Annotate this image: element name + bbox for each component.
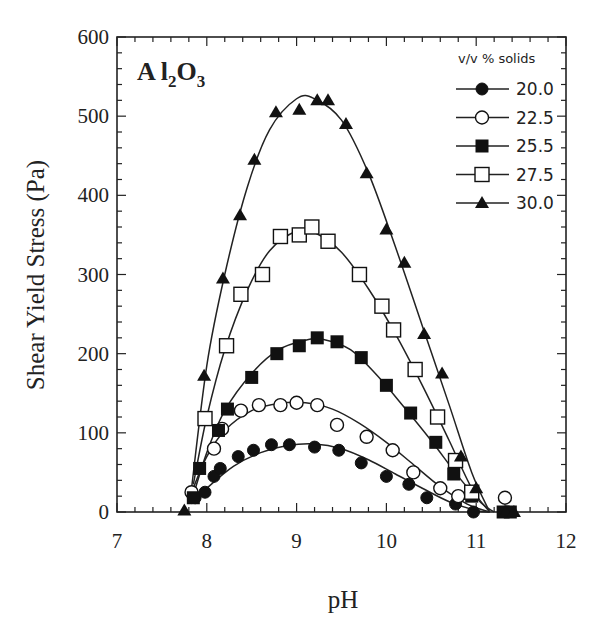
data-point-25-5 [429,436,442,449]
legend-label: 25.5 [516,136,554,156]
data-point-27-5 [198,412,212,426]
data-point-25-5 [245,371,258,384]
data-point-22-5 [234,404,247,417]
x-tick-label: 11 [466,529,486,553]
data-point-27-5 [375,299,389,313]
y-axis-title: Shear Yield Stress (Pa) [22,160,50,390]
x-tick-label: 7 [112,529,123,553]
data-point-27-5 [352,268,366,282]
legend-label: 30.0 [516,193,554,213]
data-point-30-0 [197,369,211,381]
data-point-20-0 [265,439,277,451]
data-point-25-5 [212,424,225,437]
data-point-27-5 [431,410,445,424]
data-point-20-0 [232,451,244,463]
data-point-22-5 [434,482,447,495]
data-point-27-5 [255,268,269,282]
data-point-22-5 [498,491,511,504]
data-point-30-0 [216,271,230,283]
data-point-25-5 [447,468,460,481]
y-tick-label: 500 [78,104,110,128]
x-tick-label: 8 [202,529,213,553]
data-point-20-0 [199,486,211,498]
data-points [177,93,521,518]
data-point-25-5 [270,347,283,360]
compound-annotation: A l2O3 [137,57,205,91]
data-point-20-0 [468,506,480,518]
fit-curve-27-5 [193,229,489,512]
legend-marker-27-5 [475,168,489,182]
data-point-25-5 [355,351,368,364]
x-axis-title: pH [328,586,359,613]
data-point-22-5 [311,399,324,412]
plot-frame [117,37,566,512]
y-tick-label: 200 [78,342,110,366]
data-point-30-0 [321,93,335,105]
x-tick-label: 12 [556,529,577,553]
legend-marker-25-5 [476,140,489,153]
data-point-25-5 [331,335,344,348]
data-point-20-0 [333,444,345,456]
data-point-22-5 [331,418,344,431]
data-point-22-5 [452,490,465,503]
data-point-22-5 [360,430,373,443]
data-point-25-5 [293,339,306,352]
x-tick-label: 10 [376,529,397,553]
data-point-22-5 [274,399,287,412]
data-point-30-0 [292,103,306,115]
data-point-30-0 [269,105,283,117]
data-point-20-0 [355,457,367,469]
y-tick-label: 0 [99,500,110,524]
data-point-25-5 [380,379,393,392]
data-point-22-5 [407,466,420,479]
data-point-27-5 [321,234,335,248]
data-point-27-5 [305,220,319,234]
chart: 7891011120100200300400500600 A l2O3 pH S… [0,0,615,635]
data-point-22-5 [207,442,220,455]
y-tick-label: 600 [78,25,110,49]
legend-marker-20-0 [476,83,488,95]
legend-label: 22.5 [516,108,554,128]
data-point-27-5 [387,323,401,337]
data-point-20-0 [283,439,295,451]
data-point-20-0 [403,478,415,490]
legend-title: v/v % solids [458,51,536,66]
data-point-25-5 [221,403,234,416]
data-point-30-0 [247,153,261,165]
legend: v/v % solids20.022.525.527.530.0 [456,51,554,213]
data-point-30-0 [360,166,374,178]
y-tick-label: 400 [78,183,110,207]
data-point-30-0 [233,208,247,220]
data-point-22-5 [386,444,399,457]
data-point-27-5 [220,339,234,353]
data-point-20-0 [380,470,392,482]
y-tick-label: 100 [78,421,110,445]
y-tick-label: 300 [78,263,110,287]
data-point-27-5 [408,363,422,377]
data-point-30-0 [379,222,393,234]
data-point-20-0 [309,441,321,453]
data-point-22-5 [252,399,265,412]
data-point-27-5 [273,230,287,244]
data-point-20-0 [247,444,259,456]
legend-label: 20.0 [516,79,554,99]
data-point-25-5 [193,462,206,475]
plot-border [117,37,566,512]
axis-ticks [117,37,566,512]
data-point-30-0 [417,327,431,339]
data-point-25-5 [311,331,324,344]
legend-label: 27.5 [516,165,554,185]
data-point-20-0 [214,462,226,474]
data-point-25-5 [187,491,200,504]
data-point-22-5 [290,396,303,409]
legend-marker-30-0 [475,196,489,208]
data-point-25-5 [404,407,417,420]
x-tick-label: 9 [291,529,302,553]
data-point-20-0 [421,492,433,504]
legend-marker-22-5 [476,111,489,124]
data-point-27-5 [234,287,248,301]
